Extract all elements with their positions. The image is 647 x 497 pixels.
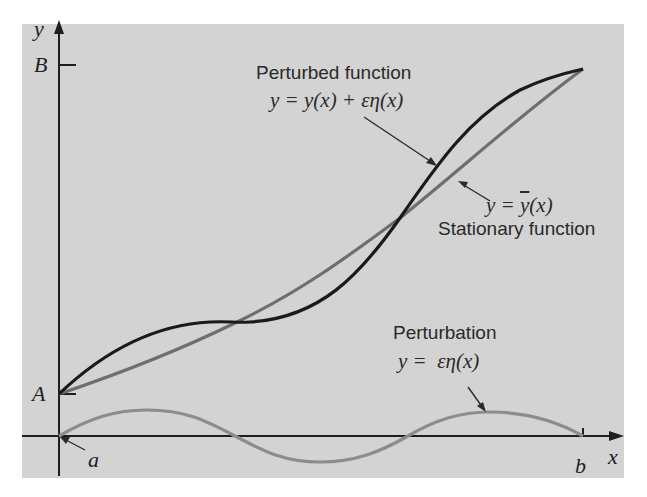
perturbation-formula: y = εη(x) xyxy=(398,349,479,374)
perturbation-arrowhead-icon xyxy=(477,402,486,412)
x-tick-label-a: a xyxy=(88,447,99,473)
stationary-formula-lhs: y = xyxy=(486,193,520,217)
stationary-title: Stationary function xyxy=(438,218,595,240)
y-tick-label-A: A xyxy=(32,381,45,407)
perturbed-arrowhead-icon xyxy=(426,157,437,166)
stationary-formula: y = y(x) xyxy=(486,193,553,218)
stationary-formula-ybar: y xyxy=(520,193,529,217)
perturbed-formula: y = y(x) + εη(x) xyxy=(270,88,403,113)
perturbed-title: Perturbed function xyxy=(256,62,411,84)
perturbation-title: Perturbation xyxy=(393,322,497,344)
y-axis-label: y xyxy=(34,16,44,42)
a-arrowhead-icon xyxy=(60,437,70,444)
perturbed-pointer xyxy=(364,117,433,163)
x-tick-label-b: b xyxy=(575,453,586,479)
x-axis-arrow-icon xyxy=(609,431,624,441)
y-tick-label-B: B xyxy=(34,52,47,78)
y-axis-arrow-icon xyxy=(54,20,64,34)
x-axis-label: x xyxy=(608,444,618,470)
stationary-formula-rhs: (x) xyxy=(529,193,552,217)
